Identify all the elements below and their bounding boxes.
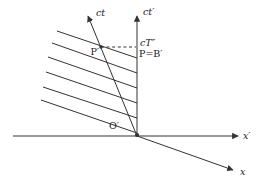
P-equals-B-prime-label: P=B′ <box>139 48 163 59</box>
x-prime-axis-label: x′ <box>243 130 251 141</box>
ct-prime-axis-label: ct′ <box>143 6 155 17</box>
cT-doubleprime-label: cT″ <box>140 37 156 48</box>
O-prime-label: O′ <box>109 120 119 131</box>
x-axis-label: x <box>240 166 246 177</box>
spacetime-diagram-svg: x′ct′ctxP′cT″P=B′O′ <box>0 0 258 194</box>
ct-axis-label: ct <box>96 7 105 18</box>
P-prime-point <box>99 45 103 49</box>
P-prime-label: P′ <box>90 46 99 57</box>
origin-point <box>135 133 139 137</box>
spacetime-diagram-figure: x′ct′ctxP′cT″P=B′O′ <box>0 0 258 194</box>
